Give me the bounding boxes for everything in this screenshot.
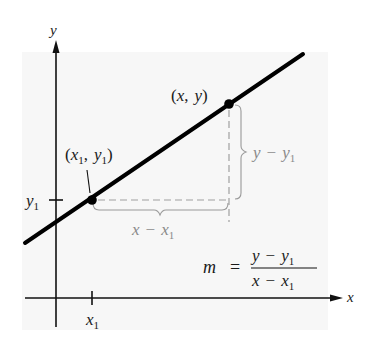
formula-denominator: x−x1 [251,271,294,292]
formula-equals: = [230,257,240,277]
y-axis-arrow-icon [53,40,60,53]
formula-numerator: y−y1 [250,246,294,267]
run-label: x−x1 [131,220,174,241]
y-axis-label: y [48,22,57,38]
point-x-y [224,99,234,109]
rise-label: y−y1 [251,143,295,164]
point-x1-y1 [87,195,97,205]
point-slope-diagram: y x y1 x1 y−y1 x−x1 (x1,y1) (x,y) m = y−… [0,0,374,343]
x-axis-label: x [346,289,354,305]
formula-lhs: m [203,257,216,277]
x-axis-arrow-icon [330,295,343,302]
